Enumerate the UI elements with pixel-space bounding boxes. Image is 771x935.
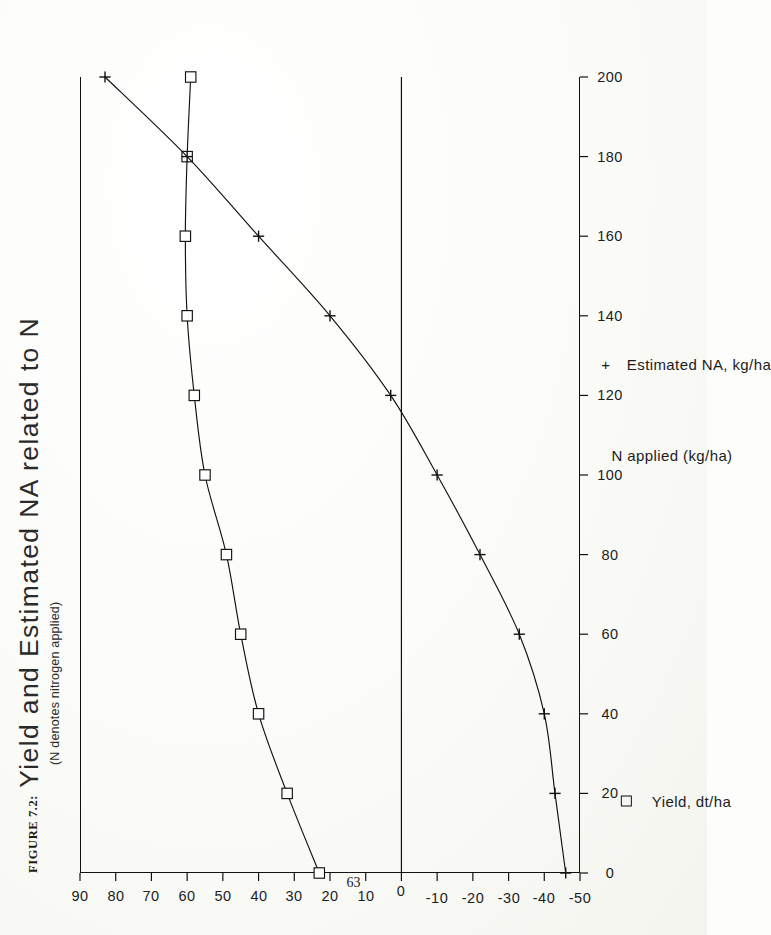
- y-axis-tick-label: 50: [214, 888, 231, 904]
- figure-caption: FIGURE 7.2: Yield and Estimated NA relat…: [14, 317, 45, 873]
- y-axis-tick-label: 90: [71, 888, 88, 904]
- x-axis-tick-label: 160: [597, 228, 623, 244]
- y-axis-tick-label: 80: [107, 888, 124, 904]
- data-point-square: [314, 868, 324, 878]
- legend-item-yield[interactable]: Yield, dt/ha: [621, 793, 731, 810]
- x-axis-tick-label: 0: [606, 865, 615, 881]
- x-axis-tick-label: 140: [597, 308, 623, 324]
- y-axis-tick-label: -50: [569, 890, 591, 906]
- data-point-square: [253, 709, 263, 719]
- data-point-square: [236, 629, 246, 639]
- legend-label-yield: Yield, dt/ha: [652, 793, 731, 810]
- page-number: 63: [347, 875, 361, 891]
- y-axis-tick-label: -30: [497, 890, 519, 906]
- x-axis-tick-label: 60: [601, 626, 618, 642]
- data-point-square: [282, 788, 292, 798]
- plot-area: [80, 77, 580, 873]
- data-point-square: [189, 390, 199, 400]
- figure-number-label: FIGURE 7.2:: [26, 795, 41, 873]
- x-axis-tick-label: 100: [597, 467, 623, 483]
- y-axis-tick-label: 20: [321, 888, 338, 904]
- data-point-square: [180, 231, 190, 241]
- figure-subtitle: (N denotes nitrogen applied): [48, 602, 62, 765]
- plus-marker-icon: +: [597, 356, 615, 371]
- y-axis-tick-label: 60: [179, 888, 196, 904]
- x-axis-tick-label: 40: [601, 706, 618, 722]
- y-axis-tick-label: -10: [426, 890, 448, 906]
- legend-label-estimated-na: Estimated NA, kg/ha: [627, 355, 771, 372]
- chart-svg: [80, 77, 580, 873]
- x-axis-tick-label: 200: [597, 69, 623, 85]
- x-axis-title: N applied (kg/ha): [611, 447, 732, 464]
- x-axis-tick-label: 180: [597, 149, 623, 165]
- y-axis-tick-label: 0: [397, 883, 406, 899]
- y-axis-tick-label: 70: [143, 888, 160, 904]
- x-axis-tick-label: 80: [601, 547, 618, 563]
- data-point-square: [200, 470, 210, 480]
- square-marker-icon: [621, 796, 632, 807]
- series-line-estimated-na: [105, 77, 566, 873]
- y-axis-tick-label: 40: [250, 888, 267, 904]
- data-point-square: [186, 72, 196, 82]
- figure-title: Yield and Estimated NA related to N: [14, 317, 45, 788]
- y-axis-tick-label: -20: [462, 890, 484, 906]
- x-axis-tick-label: 20: [601, 785, 618, 801]
- y-axis-tick-label: 30: [286, 888, 303, 904]
- legend-item-estimated-na[interactable]: + Estimated NA, kg/ha: [597, 355, 771, 372]
- data-point-square: [221, 549, 231, 559]
- data-point-square: [182, 311, 192, 321]
- y-axis-tick-label: -40: [533, 890, 555, 906]
- x-axis-tick-label: 120: [597, 387, 623, 403]
